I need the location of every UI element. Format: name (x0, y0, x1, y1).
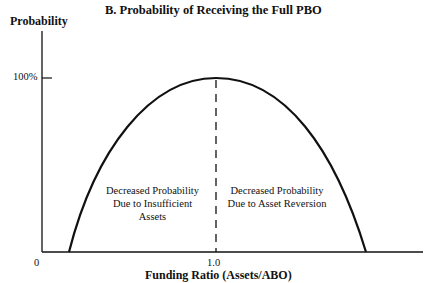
probability-curve (69, 78, 366, 252)
annotation-left: Decreased Probability Due to Insufficien… (100, 184, 205, 223)
y-tick-label-100: 100% (13, 71, 38, 82)
annotation-left-line-3: Assets (100, 210, 205, 223)
x-axis-label: Funding Ratio (Assets/ABO) (145, 268, 292, 283)
annotation-left-line-1: Decreased Probability (100, 184, 205, 197)
annotation-left-line-2: Due to Insufficient (100, 197, 205, 210)
x-tick-label-0: 0 (34, 257, 39, 268)
x-tick-label-1: 1.0 (207, 257, 220, 268)
annotation-right: Decreased Probability Due to Asset Rever… (222, 184, 332, 210)
annotation-right-line-2: Due to Asset Reversion (222, 197, 332, 210)
annotation-right-line-1: Decreased Probability (222, 184, 332, 197)
